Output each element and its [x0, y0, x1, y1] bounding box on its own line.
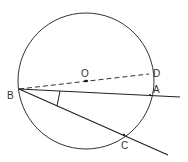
label-o: O [81, 68, 89, 79]
label-d: D [153, 68, 160, 79]
label-b: B [7, 90, 14, 101]
angle-mark [57, 91, 60, 106]
ray-bc [19, 89, 168, 155]
geometry-diagram: B O D A C [0, 0, 188, 162]
label-a: A [153, 84, 160, 95]
center-point-o [84, 80, 88, 82]
label-c: C [121, 140, 128, 151]
point-a-dot [149, 94, 151, 96]
point-c-dot [123, 134, 125, 136]
